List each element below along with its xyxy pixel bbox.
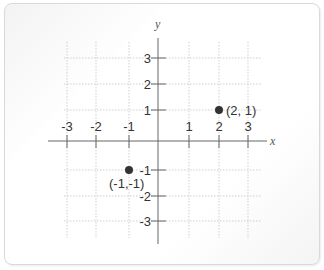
point-marker bbox=[125, 166, 133, 174]
svg-text:3: 3 bbox=[144, 51, 151, 66]
svg-text:-3: -3 bbox=[139, 214, 151, 229]
y-tick-labels: 3 2 1 -1 -2 -3 bbox=[139, 51, 151, 229]
svg-text:-1: -1 bbox=[123, 119, 135, 134]
svg-text:1: 1 bbox=[144, 103, 151, 118]
svg-text:3: 3 bbox=[244, 119, 251, 134]
point-label: (2, 1) bbox=[226, 103, 256, 118]
svg-text:-2: -2 bbox=[139, 189, 151, 204]
grid bbox=[64, 42, 262, 238]
svg-text:2: 2 bbox=[144, 77, 151, 92]
axes bbox=[48, 38, 267, 244]
x-axis-label: x bbox=[269, 134, 276, 148]
coordinate-plane: x y -3 -2 -1 1 2 3 3 2 1 -1 -2 -3 (2, 1)… bbox=[0, 0, 324, 270]
svg-text:1: 1 bbox=[185, 119, 192, 134]
svg-text:-2: -2 bbox=[90, 119, 102, 134]
svg-text:2: 2 bbox=[215, 119, 222, 134]
point-label: (-1,-1) bbox=[109, 176, 144, 191]
svg-text:-3: -3 bbox=[61, 119, 73, 134]
x-tick-labels: -3 -2 -1 1 2 3 bbox=[61, 119, 251, 134]
point-marker bbox=[215, 106, 223, 114]
point-2-1: (2, 1) bbox=[215, 103, 256, 118]
y-axis-label: y bbox=[154, 17, 161, 31]
